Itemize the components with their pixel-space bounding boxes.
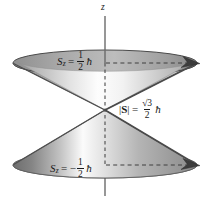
- z-axis-label: z: [101, 3, 105, 13]
- magnitude-bar-right: |: [127, 104, 129, 115]
- magnitude-equals: =: [132, 104, 138, 115]
- spin-up-fraction: 1 2: [77, 51, 84, 72]
- spin-magnitude-label: |S| = √3 2 ħ: [119, 99, 161, 120]
- spin-up-symbol: S: [57, 56, 63, 67]
- spin-down-minus-sign: −: [70, 163, 76, 174]
- spin-up-subscript: z: [63, 60, 66, 68]
- spin-up-equals: =: [68, 56, 74, 67]
- spin-down-denominator: 2: [77, 168, 84, 179]
- spin-cone-figure: z Sz = 1 2 ħ Sz = − 1 2 ħ |S| = √3 2 ħ: [0, 0, 210, 202]
- magnitude-fraction: √3 2: [141, 99, 153, 120]
- magnitude-denominator: 2: [144, 109, 151, 120]
- spin-down-subscript: z: [56, 167, 59, 175]
- spin-down-equals: =: [61, 163, 67, 174]
- spin-up-hbar-unit: ħ: [87, 56, 93, 67]
- spin-down-numerator: 1: [77, 158, 84, 168]
- spin-down-symbol: S: [50, 163, 56, 174]
- spin-up-denominator: 2: [77, 61, 84, 72]
- spin-down-fraction: 1 2: [77, 158, 84, 179]
- cone-diagram-canvas: [0, 0, 210, 202]
- magnitude-hbar-unit: ħ: [155, 104, 161, 115]
- spin-down-label: Sz = − 1 2 ħ: [50, 158, 92, 179]
- spin-up-label: Sz = 1 2 ħ: [57, 51, 92, 72]
- spin-down-hbar-unit: ħ: [86, 163, 92, 174]
- spin-up-numerator: 1: [77, 51, 84, 61]
- magnitude-numerator: √3: [141, 99, 153, 109]
